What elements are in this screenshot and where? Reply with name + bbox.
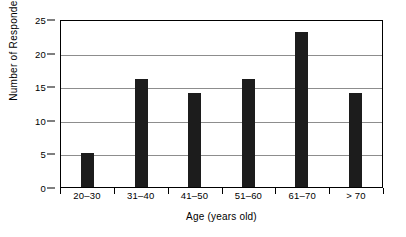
y-tick-mark: [47, 154, 55, 155]
bar: [295, 32, 308, 187]
bar: [242, 79, 255, 187]
bar: [188, 93, 201, 187]
x-tick-mark: [383, 188, 384, 194]
x-tick-label: 61–70: [275, 190, 329, 201]
x-axis-labels: 20–3031–4041–5051–6061–70> 70: [60, 190, 383, 201]
bar-series: [61, 21, 382, 187]
bar: [81, 153, 94, 187]
bar-slot: [275, 21, 329, 187]
bar-slot: [168, 21, 222, 187]
bar-slot: [61, 21, 115, 187]
x-tick-label: > 70: [329, 190, 383, 201]
x-tick-label: 41–50: [168, 190, 222, 201]
x-tick-label: 31–40: [114, 190, 168, 201]
bar-slot: [222, 21, 276, 187]
y-axis: 0510152025: [0, 0, 60, 188]
bar-slot: [115, 21, 169, 187]
y-tick-mark: [47, 20, 55, 21]
bar-chart: Number of Respondents 0510152025 20–3031…: [0, 0, 406, 237]
bar: [135, 79, 148, 187]
y-tick-label: 20: [35, 48, 46, 59]
x-tick-label: 51–60: [221, 190, 275, 201]
y-tick-mark: [47, 87, 55, 88]
bar: [349, 93, 362, 187]
y-tick-mark: [47, 53, 55, 54]
y-tick-label: 5: [41, 149, 46, 160]
y-tick-label: 10: [35, 115, 46, 126]
y-tick-mark: [47, 188, 55, 189]
y-tick-label: 25: [35, 15, 46, 26]
bar-slot: [329, 21, 383, 187]
y-tick-label: 0: [41, 183, 46, 194]
x-axis-title: Age (years old): [60, 211, 383, 222]
y-tick-label: 15: [35, 82, 46, 93]
plot-area: [60, 20, 383, 188]
x-tick-label: 20–30: [60, 190, 114, 201]
y-tick-mark: [47, 120, 55, 121]
